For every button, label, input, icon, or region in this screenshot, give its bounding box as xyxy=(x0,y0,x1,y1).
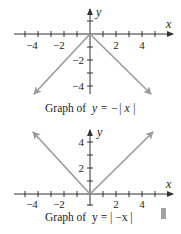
caption-prefix: Graph of xyxy=(45,102,86,115)
x-tick-label: 2 xyxy=(113,39,119,51)
x-tick-label: −2 xyxy=(53,39,65,51)
y-axis-label: y xyxy=(95,5,102,19)
x-tick-label: −4 xyxy=(26,198,38,210)
x-tick-label: 4 xyxy=(139,39,145,51)
caption-graph-1: Graph of y = −| x | xyxy=(45,102,136,115)
graph-negative-abs-x: y x −4 −2 2 4 −2 −4 Graph of y = −| x | xyxy=(14,5,173,115)
x-axis-label: x xyxy=(165,17,172,31)
y-tick-label: 2 xyxy=(79,162,85,174)
y-tick-label: −4 xyxy=(72,80,84,92)
caption-formula: y = | −x | xyxy=(92,211,133,224)
y-tick-label: 4 xyxy=(79,136,85,148)
end-marker xyxy=(161,208,166,219)
caption-prefix: Graph of xyxy=(45,211,86,224)
y-axis-label: y xyxy=(96,125,103,139)
x-tick-label: 4 xyxy=(139,198,145,210)
curve-abs-negative-right xyxy=(90,132,153,194)
caption-graph-2: Graph of y = | −x | xyxy=(45,211,133,224)
x-tick-label: −4 xyxy=(26,39,38,51)
caption-formula: y = −| x | xyxy=(91,102,136,115)
y-tick-label: −2 xyxy=(72,54,84,66)
x-axis-label: x xyxy=(165,177,172,191)
x-tick-label: 2 xyxy=(113,198,119,210)
graph-abs-negative-x: y x 4 2 −4 −2 2 4 Graph of y = | −x | xyxy=(14,125,173,224)
figure: y x −4 −2 2 4 −2 −4 Graph of y = −| x | xyxy=(0,0,181,234)
x-tick-label: −2 xyxy=(53,198,65,210)
